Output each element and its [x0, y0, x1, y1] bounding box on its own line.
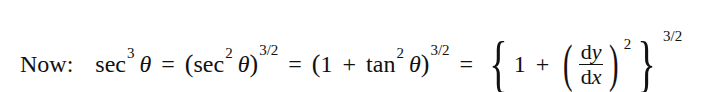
equation-line: Now: sec 3 θ = ( sec 2 θ ) 3/2 = ( 1 + t…	[20, 44, 682, 84]
tan-function: tan	[366, 51, 395, 78]
left-brace: {	[489, 32, 507, 92]
plus-sign: +	[343, 51, 357, 78]
right-paren: )	[609, 38, 619, 90]
exponent: 2	[225, 45, 233, 62]
exponent: 3/2	[259, 42, 278, 59]
one: 1	[321, 51, 333, 78]
exponent: 3/2	[430, 42, 449, 59]
equals-sign: =	[288, 51, 302, 78]
one: 1	[514, 51, 526, 78]
plus-sign: +	[536, 51, 550, 78]
theta-symbol: θ	[238, 51, 250, 78]
left-paren: (	[312, 49, 321, 79]
exponent: 2	[396, 45, 404, 62]
theta-symbol: θ	[140, 51, 152, 78]
exponent: 3/2	[663, 28, 682, 45]
exponent: 2	[624, 36, 632, 53]
right-brace: }	[637, 32, 655, 92]
right-paren: )	[421, 49, 430, 79]
sec-function: sec	[194, 51, 225, 78]
left-paren: (	[563, 38, 573, 90]
sec-function: sec	[95, 51, 126, 78]
equals-sign: =	[460, 51, 474, 78]
derivative-group: ( dy dx ) 2	[559, 38, 631, 90]
derivative-fraction: dy dx	[579, 40, 604, 89]
braced-expression: { 1 + ( dy dx ) 2 } 3/2	[483, 32, 682, 92]
left-paren: (	[185, 49, 194, 79]
theta-symbol: θ	[409, 51, 421, 78]
exponent: 3	[127, 45, 135, 62]
right-paren: )	[249, 49, 258, 79]
numerator: dy	[579, 40, 604, 65]
denominator: dx	[581, 65, 602, 89]
equals-sign: =	[161, 51, 175, 78]
equation-label: Now:	[20, 51, 73, 78]
